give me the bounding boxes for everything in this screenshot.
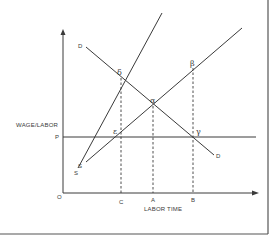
origin-label: O [57, 194, 62, 200]
point-alpha-label: α [150, 96, 156, 105]
x-tick-b: B [191, 197, 195, 203]
demand-start-label: D [78, 43, 83, 49]
point-epsilon-label: ε [113, 127, 117, 136]
supply-shallow-label: S [78, 163, 82, 169]
y-axis-arrow-icon [61, 29, 66, 35]
point-beta-label: β [190, 59, 195, 68]
y-axis-label: WAGE/LABOR [16, 122, 59, 128]
x-tick-c: C [119, 199, 124, 205]
price-label: P [55, 134, 59, 140]
supply-demand-diagram: D D S S δ α β ε γ WAGE/LABOR P O C A B L… [0, 0, 273, 236]
point-gamma-label: γ [196, 127, 201, 136]
x-axis-label: LABOR TIME [144, 206, 182, 212]
supply-curve-shallow [86, 28, 242, 162]
supply-steep-label: S [74, 170, 78, 176]
demand-end-label: D [216, 153, 221, 159]
supply-curve-steep [78, 13, 162, 168]
x-axis-arrow-icon [252, 191, 259, 196]
x-tick-a: A [151, 197, 155, 203]
point-delta-label: δ [117, 68, 122, 77]
